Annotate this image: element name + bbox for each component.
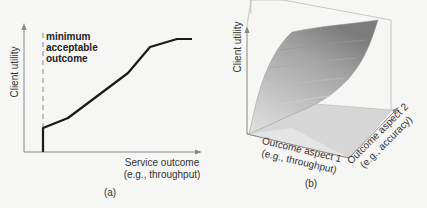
panel-b-caption: (b) <box>305 178 317 189</box>
threshold-label-line3: outcome <box>46 53 88 64</box>
box-edge <box>247 0 251 26</box>
z-axis-label: Client utility <box>232 21 243 72</box>
panel-a: Client utility minimum acceptable outcom… <box>9 23 202 198</box>
box-edge <box>283 0 391 20</box>
y-axis-label: Client utility <box>9 46 20 97</box>
x-axis-label-line1: Service outcome <box>125 157 200 168</box>
panel-a-caption: (a) <box>104 187 116 198</box>
threshold-label-line1: minimum <box>46 31 91 42</box>
figure: Client utility minimum acceptable outcom… <box>0 0 427 208</box>
x-axis-label-line2: (e.g., throughput) <box>124 169 201 180</box>
x-axis-arrow-icon <box>195 150 202 155</box>
y-axis-arrow-icon <box>22 23 27 30</box>
z-axis-arrow-icon <box>245 26 250 33</box>
threshold-label-line2: acceptable <box>46 42 98 53</box>
panel-b: Client utility Outcome aspect 1 (e.g., t… <box>232 0 419 189</box>
